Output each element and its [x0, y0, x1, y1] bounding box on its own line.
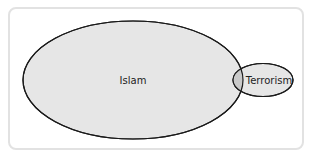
label-terrorism: Terrorism: [245, 75, 292, 86]
venn-diagram: Islam Terrorism: [0, 0, 315, 159]
label-islam: Islam: [120, 75, 147, 86]
